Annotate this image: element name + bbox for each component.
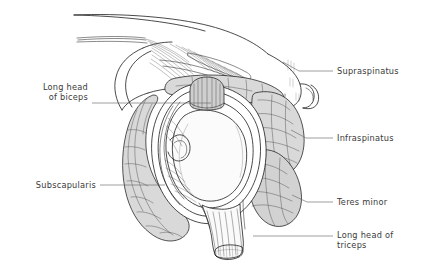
label-long-head-of-biceps-line1: Long head — [43, 82, 88, 92]
label-subscapularis: Subscapularis — [36, 180, 96, 190]
label-long-head-of-biceps-line2: of biceps — [49, 92, 88, 102]
label-infraspinatus: Infraspinatus — [337, 133, 394, 143]
biceps-tendon — [190, 77, 224, 111]
label-teres-minor: Teres minor — [336, 197, 388, 207]
anatomy-figure: Supraspinatus Infraspinatus Teres minor … — [0, 0, 422, 269]
shoulder-anatomy-svg: Supraspinatus Infraspinatus Teres minor … — [0, 0, 422, 269]
label-supraspinatus: Supraspinatus — [337, 66, 399, 76]
label-long-head-of-triceps-line2: triceps — [337, 240, 367, 250]
biceps-tendon-striations — [194, 77, 220, 109]
label-long-head-of-triceps-line1: Long head of — [337, 230, 394, 240]
